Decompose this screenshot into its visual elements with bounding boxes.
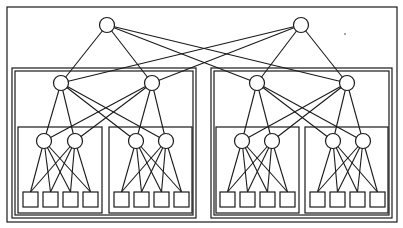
edge-a3-b6 bbox=[257, 83, 272, 141]
node-circle-r1 bbox=[100, 18, 115, 33]
edge-b3-l7 bbox=[136, 141, 162, 192]
leaf-box-l14 bbox=[330, 192, 345, 207]
leaf-box-l8 bbox=[174, 192, 189, 207]
edge-a1-b1 bbox=[44, 83, 61, 141]
node-circle-a1 bbox=[54, 76, 69, 91]
edge-a2-b1 bbox=[44, 83, 152, 141]
leaf-box-l10 bbox=[240, 192, 255, 207]
edge-r1-a1 bbox=[61, 25, 107, 83]
edge-a3-b5 bbox=[242, 83, 257, 141]
leaf-box-l12 bbox=[280, 192, 295, 207]
node-circle-b4 bbox=[159, 134, 174, 149]
leaf-box-l7 bbox=[154, 192, 169, 207]
leaf-box-l2 bbox=[43, 192, 58, 207]
leaf-box-l3 bbox=[63, 192, 78, 207]
leaf-box-l9 bbox=[220, 192, 235, 207]
node-circle-a2 bbox=[145, 76, 160, 91]
node-circle-a4 bbox=[340, 76, 355, 91]
edge-r2-a4 bbox=[301, 25, 347, 83]
edge-b5-l11 bbox=[242, 141, 268, 192]
edge-a4-b8 bbox=[347, 83, 363, 141]
switch-nodes bbox=[37, 18, 371, 149]
edge-b1-l4 bbox=[44, 141, 91, 192]
leaf-box-l13 bbox=[310, 192, 325, 207]
edge-a4-b6 bbox=[272, 83, 347, 141]
edge-r2-a1 bbox=[61, 25, 301, 83]
leaf-box-l1 bbox=[23, 192, 38, 207]
node-circle-b3 bbox=[129, 134, 144, 149]
leaf-box-l6 bbox=[134, 192, 149, 207]
edge-b8-l14 bbox=[338, 141, 364, 192]
node-circle-r2 bbox=[294, 18, 309, 33]
leaf-terminals bbox=[23, 192, 385, 207]
leaf-box-l5 bbox=[114, 192, 129, 207]
leaf-box-l4 bbox=[83, 192, 98, 207]
network-edges bbox=[31, 25, 378, 192]
leaf-box-l16 bbox=[370, 192, 385, 207]
hierarchical-network-diagram bbox=[0, 0, 403, 228]
node-circle-b1 bbox=[37, 134, 52, 149]
node-circle-b5 bbox=[235, 134, 250, 149]
edge-a2-b2 bbox=[75, 83, 152, 141]
scan-speck bbox=[344, 33, 346, 35]
edge-a4-b5 bbox=[242, 83, 347, 141]
node-circle-b8 bbox=[356, 134, 371, 149]
edge-a2-b4 bbox=[152, 83, 166, 141]
node-circle-b7 bbox=[326, 134, 341, 149]
leaf-box-l11 bbox=[260, 192, 275, 207]
node-circle-b6 bbox=[265, 134, 280, 149]
node-circle-a3 bbox=[250, 76, 265, 91]
node-circle-b2 bbox=[68, 134, 83, 149]
leaf-box-l15 bbox=[350, 192, 365, 207]
